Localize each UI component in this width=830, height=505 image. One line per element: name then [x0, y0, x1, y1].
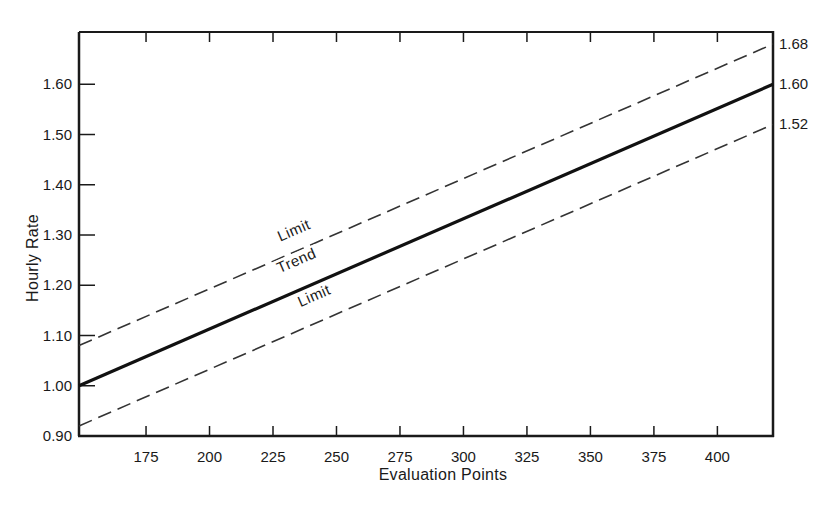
right-value-label: 1.60: [779, 75, 808, 92]
right-value-label: 1.68: [779, 35, 808, 52]
annotation-text: Trend: [274, 244, 319, 276]
x-tick-label: 225: [260, 448, 285, 465]
y-axis-ticks: 0.901.001.101.201.301.401.501.60: [43, 75, 95, 444]
x-tick-label: 400: [705, 448, 730, 465]
lower-limit-line: [79, 124, 773, 425]
y-tick-label: 1.20: [43, 276, 72, 293]
y-tick-label: 1.50: [43, 126, 72, 143]
right-end-labels: 1.681.601.52: [779, 35, 808, 132]
chart: 175200225250275300325350375400 0.901.001…: [0, 0, 830, 505]
right-value-label: 1.52: [779, 115, 808, 132]
x-axis-ticks: 175200225250275300325350375400: [134, 32, 730, 465]
x-tick-label: 275: [387, 448, 412, 465]
annotation-trend: Trend: [271, 243, 322, 279]
y-tick-label: 0.90: [43, 427, 72, 444]
x-axis-title: Evaluation Points: [379, 466, 508, 483]
y-tick-label: 1.40: [43, 176, 72, 193]
x-tick-label: 350: [578, 448, 603, 465]
y-axis-title: Hourly Rate: [24, 214, 41, 302]
y-tick-label: 1.10: [43, 327, 72, 344]
x-tick-label: 250: [324, 448, 349, 465]
series-lines: [79, 44, 773, 426]
y-tick-label: 1.60: [43, 75, 72, 92]
x-tick-label: 325: [514, 448, 539, 465]
upper-limit-line: [79, 44, 773, 345]
y-tick-label: 1.00: [43, 377, 72, 394]
x-tick-label: 300: [451, 448, 476, 465]
y-tick-label: 1.30: [43, 226, 72, 243]
x-tick-label: 175: [134, 448, 159, 465]
trend-line: [79, 84, 773, 385]
x-tick-label: 375: [641, 448, 666, 465]
annotation-upper-limit: Limit: [268, 213, 319, 249]
x-tick-label: 200: [197, 448, 222, 465]
